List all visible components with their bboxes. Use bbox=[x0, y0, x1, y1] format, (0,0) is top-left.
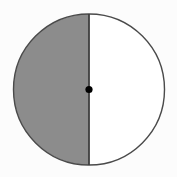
center-point-dot bbox=[85, 86, 92, 93]
circle-diagram-svg bbox=[0, 0, 177, 177]
figure-canvas: Circle divided by a vertical diameter wi… bbox=[0, 0, 177, 177]
